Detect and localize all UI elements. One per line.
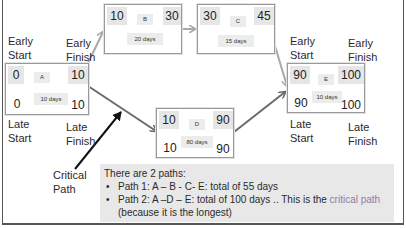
node-a: 0 A 10 10 days 0 10 xyxy=(5,63,89,115)
node-e: 90 E 100 10 days 90 100 xyxy=(287,63,365,113)
node-d-id: D xyxy=(189,119,205,130)
node-a-late-finish: 10 xyxy=(68,96,88,114)
node-a-late-start: 0 xyxy=(10,95,24,113)
path-2-item: Path 2: A –D – E: total of 100 days .. T… xyxy=(118,193,390,219)
label-early-start-left: Early Start xyxy=(8,34,33,62)
label-early-finish-right: Early Finish xyxy=(348,36,377,64)
label-early-start-right: Early Start xyxy=(290,34,315,62)
node-c-duration: 15 days xyxy=(218,35,254,47)
node-d-duration: 80 days xyxy=(181,136,213,148)
edge-d-e xyxy=(234,92,285,132)
node-d-late-finish: 90 xyxy=(213,140,233,158)
path-1-item: Path 1: A – B - C- E: total of 55 days xyxy=(118,180,390,193)
critical-path-callout-label: Critical Path xyxy=(53,168,87,196)
note-heading: There are 2 paths: xyxy=(104,167,390,180)
label-late-finish-right: Late Finish xyxy=(348,120,377,148)
node-a-duration: 10 days xyxy=(34,93,68,105)
label-late-start-left: Late Start xyxy=(8,117,31,145)
label-early-finish-left: Early Finish xyxy=(66,36,95,64)
node-b-duration: 20 days xyxy=(127,33,163,45)
node-a-id: A xyxy=(34,72,50,83)
paths-list: Path 1: A – B - C- E: total of 55 days P… xyxy=(104,180,390,219)
node-e-late-start: 90 xyxy=(292,94,310,112)
node-b-id: B xyxy=(137,14,153,25)
paths-summary-note: There are 2 paths: Path 1: A – B - C- E:… xyxy=(100,164,394,222)
node-d-early-finish: 90 xyxy=(213,111,233,129)
label-late-finish-left: Late Finish xyxy=(66,120,95,148)
node-c: 30 C 45 15 days xyxy=(197,4,275,54)
node-b-early-finish: 30 xyxy=(163,7,181,25)
node-d-late-start: 10 xyxy=(161,139,179,157)
node-c-id: C xyxy=(230,16,246,27)
node-a-early-start: 0 xyxy=(8,66,24,84)
node-c-early-finish: 45 xyxy=(254,7,274,25)
node-d: 10 D 90 80 days 10 90 xyxy=(156,108,234,158)
node-d-early-start: 10 xyxy=(159,111,179,129)
node-b-early-start: 10 xyxy=(107,7,127,25)
label-late-start-right: Late Start xyxy=(290,117,313,145)
node-b: 10 B 30 20 days xyxy=(104,4,182,54)
node-e-late-finish: 100 xyxy=(338,96,364,114)
edge-a-d xyxy=(88,86,156,131)
node-c-early-start: 30 xyxy=(200,7,220,25)
node-e-early-finish: 100 xyxy=(338,66,364,84)
node-e-early-start: 90 xyxy=(290,66,310,84)
node-e-id: E xyxy=(318,74,334,85)
edge-c-e xyxy=(275,46,287,86)
critical-path-highlight: critical path xyxy=(330,194,381,205)
node-a-early-finish: 10 xyxy=(68,66,88,84)
